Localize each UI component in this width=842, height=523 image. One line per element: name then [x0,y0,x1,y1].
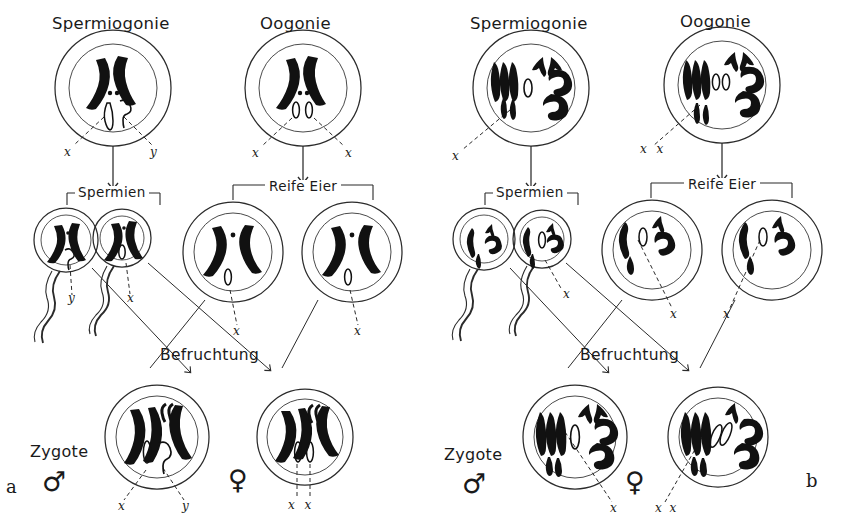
fertilization-label-b: Befruchtung [580,348,679,364]
diagram-linework [0,0,842,523]
title-spermiogonie-a: Spermiogonie [52,16,170,33]
zygote-label-b: Zygote [444,447,502,463]
zygote-male-x-a: x [118,500,125,512]
gamete-label-x2-oogonie-a: x [345,147,352,159]
fertilization-label-a: Befruchtung [160,348,259,364]
title-spermiogonie-b: Spermiogonie [470,16,588,33]
zygote-male-x-b: x [610,502,617,514]
sperm-marker-y-a: y [68,292,75,304]
female-symbol-a: ♀ [228,466,248,493]
egg-marker-x2-b: x [723,308,730,320]
gamete-label-x-spermiogonie-a: x [64,146,71,158]
panel-letter-b: b [806,472,818,490]
title-oogonie-a: Oogonie [260,16,331,33]
title-oogonie-b: Oogonie [680,14,751,31]
egg-marker-x2-a: x [354,325,361,337]
sperm-marker-x-b: x [563,288,570,300]
gamete-label-y-spermiogonie-a: y [150,146,157,158]
chromosomes [47,52,795,477]
box-label-reife-eier-a: Reife Eier [265,180,341,194]
zygote-female-xx-b: x x [655,502,678,514]
egg-marker-x1-a: x [233,325,240,337]
zygote-label-a: Zygote [30,444,88,460]
box-label-reife-eier-b: Reife Eier [684,178,760,192]
female-symbol-b: ♀ [625,468,645,495]
sperm-marker-x-a: x [127,292,134,304]
gamete-label-x-spermiogonie-b: x [452,150,459,162]
cell-membrane-oogonie-a [245,30,361,146]
male-symbol-a: ♂ [42,468,66,495]
sperm-head-b1 [453,208,515,270]
figure-canvas: Spermiogonie Oogonie x y x x Spermien Re… [0,0,842,523]
egg-membrane-a2 [302,202,402,302]
box-label-spermien-b: Spermien [493,186,567,200]
egg-marker-x1-b: x [670,308,677,320]
zygote-female-xx-a: x x [288,499,314,511]
gamete-label-x1-oogonie-a: x [252,147,259,159]
box-label-spermien-a: Spermien [75,186,149,200]
egg-membrane-a1 [183,202,283,302]
panel-letter-a: a [6,478,17,496]
sperm-head-a1 [34,208,98,272]
cell-membrane-spermiogonie-a [55,30,171,146]
gamete-label-xx-oogonie-b: x x [640,143,666,155]
egg-membrane-b1 [602,200,702,300]
male-symbol-b: ♂ [462,470,486,497]
zygote-male-y-a: y [182,500,189,512]
egg-membrane-b2 [722,200,822,300]
nucleus-oogonie-a [259,44,347,132]
